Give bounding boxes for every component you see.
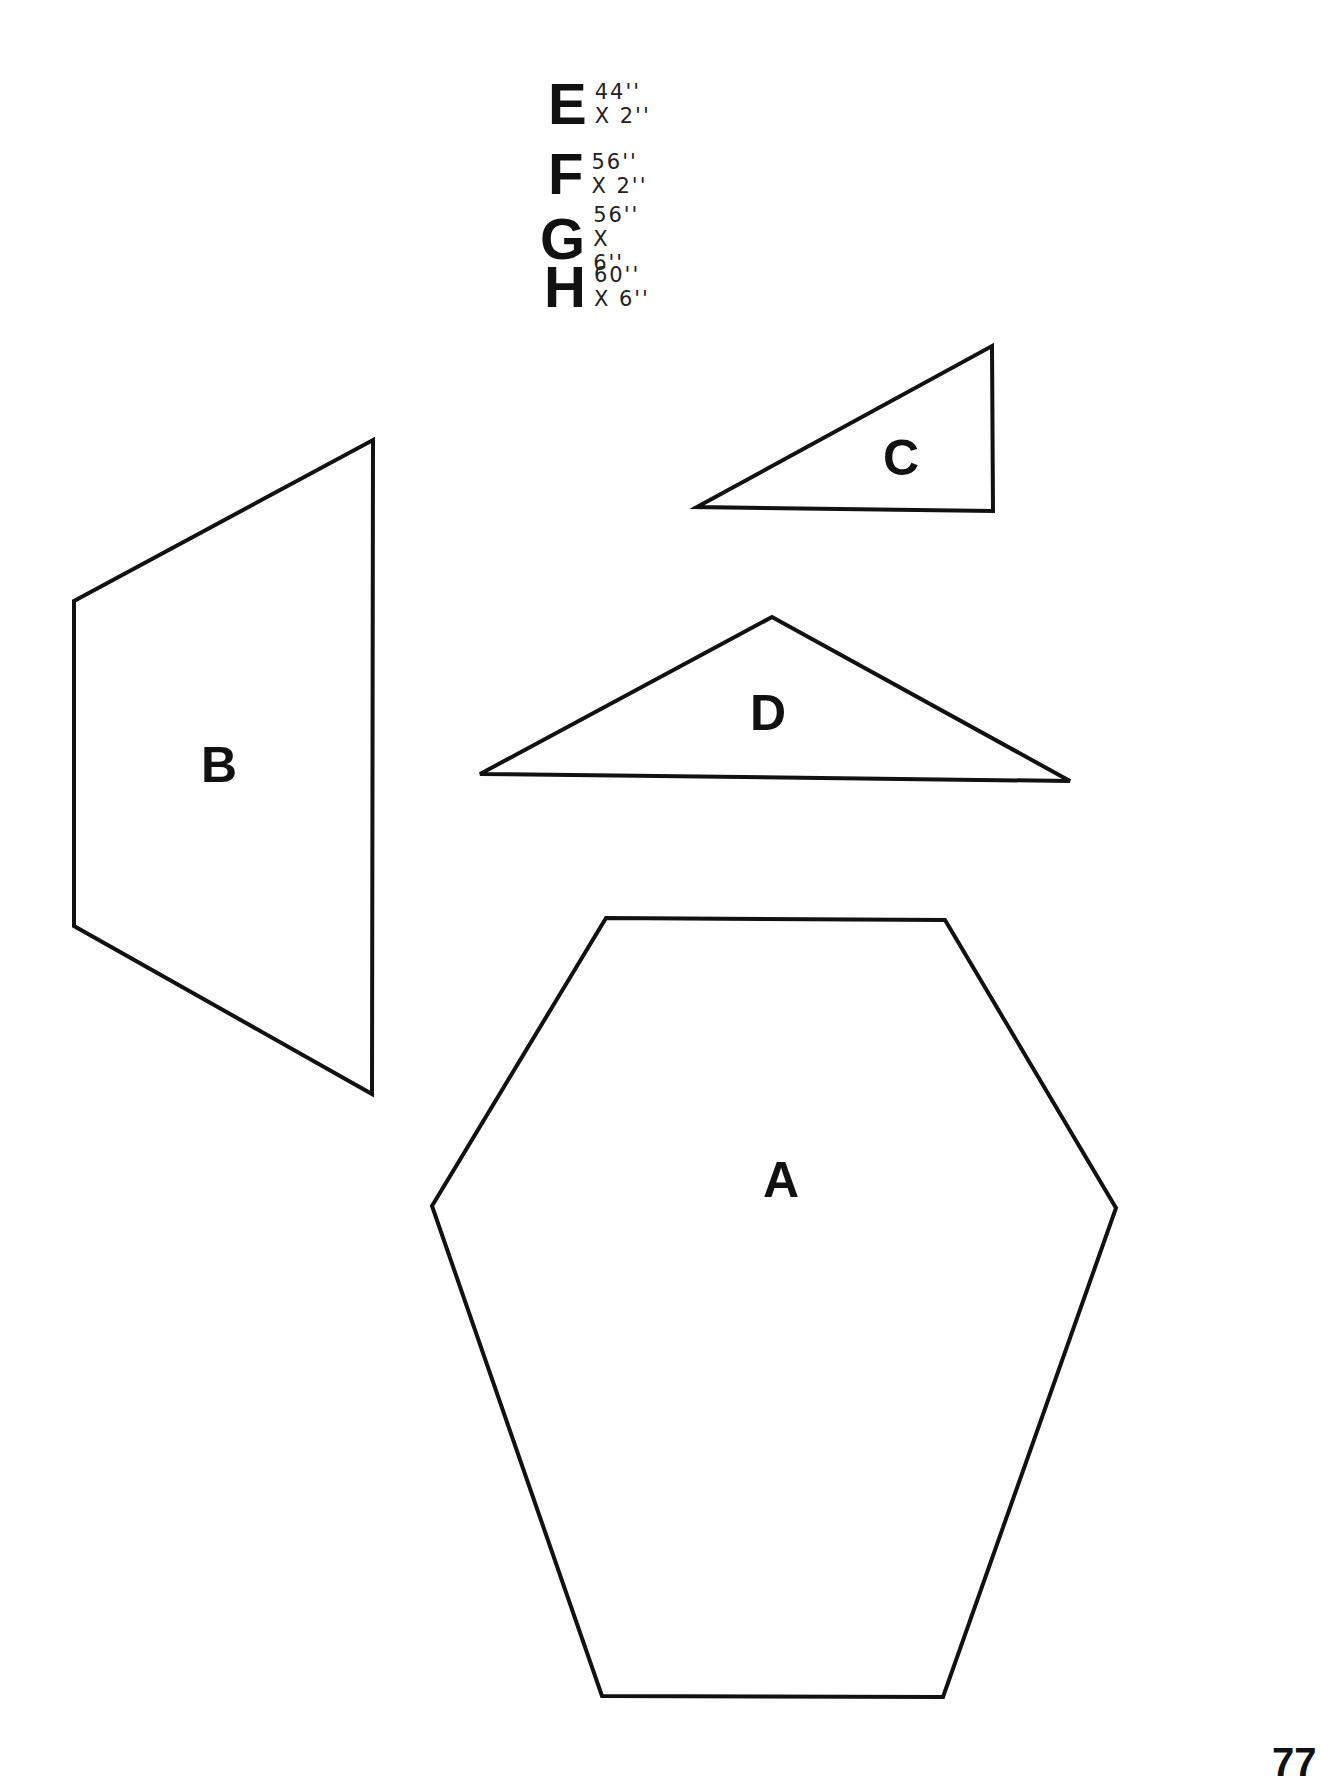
shape-d-label: D: [750, 688, 786, 738]
page-number: 77: [1272, 1742, 1317, 1780]
shape-c-triangle: [697, 346, 993, 511]
shape-a-hexagon: [432, 918, 1116, 1697]
shape-c-label: C: [883, 433, 919, 483]
shape-a-label: A: [763, 1155, 799, 1205]
shape-b-label: B: [201, 740, 237, 790]
